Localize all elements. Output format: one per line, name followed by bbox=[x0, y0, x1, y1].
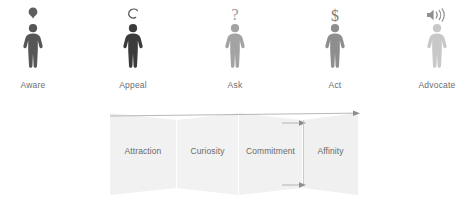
engagement-funnel: Attraction Curiosity Commitment Affinity bbox=[110, 113, 358, 195]
person-figure-icon bbox=[390, 22, 471, 72]
stage-act[interactable]: $ Act bbox=[288, 0, 382, 100]
journey-stage-row: Aware Appeal ? Ask bbox=[0, 0, 471, 100]
person-figure-icon bbox=[0, 22, 80, 72]
funnel-label-affinity: Affinity bbox=[303, 146, 358, 156]
funnel-segment-attraction[interactable]: Attraction bbox=[110, 113, 176, 195]
funnel-segment-affinity[interactable]: Affinity bbox=[303, 113, 358, 195]
person-figure-icon bbox=[188, 22, 282, 72]
stage-ask[interactable]: ? Ask bbox=[188, 0, 282, 100]
stage-label-appeal: Appeal bbox=[86, 80, 180, 90]
stage-label-ask: Ask bbox=[188, 80, 282, 90]
stage-appeal[interactable]: Appeal bbox=[86, 0, 180, 100]
funnel-label-commitment: Commitment bbox=[239, 146, 302, 156]
funnel-label-curiosity: Curiosity bbox=[177, 146, 238, 156]
funnel-divider-line bbox=[302, 120, 305, 184]
person-figure-icon bbox=[86, 22, 180, 72]
stage-label-act: Act bbox=[288, 80, 382, 90]
funnel-segment-curiosity[interactable]: Curiosity bbox=[177, 113, 238, 195]
stage-aware[interactable]: Aware bbox=[0, 0, 80, 100]
stage-label-aware: Aware bbox=[0, 80, 80, 90]
stage-label-advocate: Advocate bbox=[390, 80, 471, 90]
person-figure-icon bbox=[288, 22, 382, 72]
svg-text:?: ? bbox=[231, 6, 238, 23]
funnel-arrow-top bbox=[110, 110, 362, 120]
stage-advocate[interactable]: Advocate bbox=[390, 0, 471, 100]
funnel-label-attraction: Attraction bbox=[110, 146, 176, 156]
